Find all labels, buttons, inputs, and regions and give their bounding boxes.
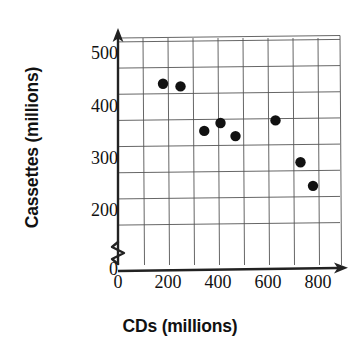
x-tick-0: 0 — [96, 272, 140, 293]
data-point — [199, 126, 209, 136]
y-tick-400: 400 — [72, 96, 118, 117]
y-axis-tick-labels: 500 400 300 200 0 — [50, 0, 118, 360]
y-tick-200: 200 — [72, 200, 118, 221]
grid-horizontal-lines — [118, 36, 340, 226]
data-point — [175, 81, 185, 91]
y-axis-title-text: Cassettes (millions) — [23, 67, 44, 228]
grid-vertical-lines — [143, 36, 342, 266]
y-tick-300: 300 — [72, 148, 118, 169]
x-tick-800: 800 — [296, 272, 340, 293]
data-point — [230, 131, 240, 141]
x-tick-600: 600 — [246, 272, 290, 293]
data-point — [270, 115, 280, 125]
x-tick-400: 400 — [196, 272, 240, 293]
data-point — [295, 157, 305, 167]
y-axis-title: Cassettes (millions) — [18, 30, 48, 265]
scatter-plot-figure: Cassettes (millions) 500 400 300 200 0 0… — [0, 0, 360, 360]
data-point — [158, 79, 168, 89]
x-axis-title: CDs (millions) — [0, 316, 360, 337]
x-axis-tick-labels: 0 200 400 600 800 — [0, 272, 360, 300]
y-tick-500: 500 — [72, 43, 118, 64]
data-point — [308, 181, 318, 191]
data-point — [215, 118, 225, 128]
x-tick-200: 200 — [146, 272, 190, 293]
